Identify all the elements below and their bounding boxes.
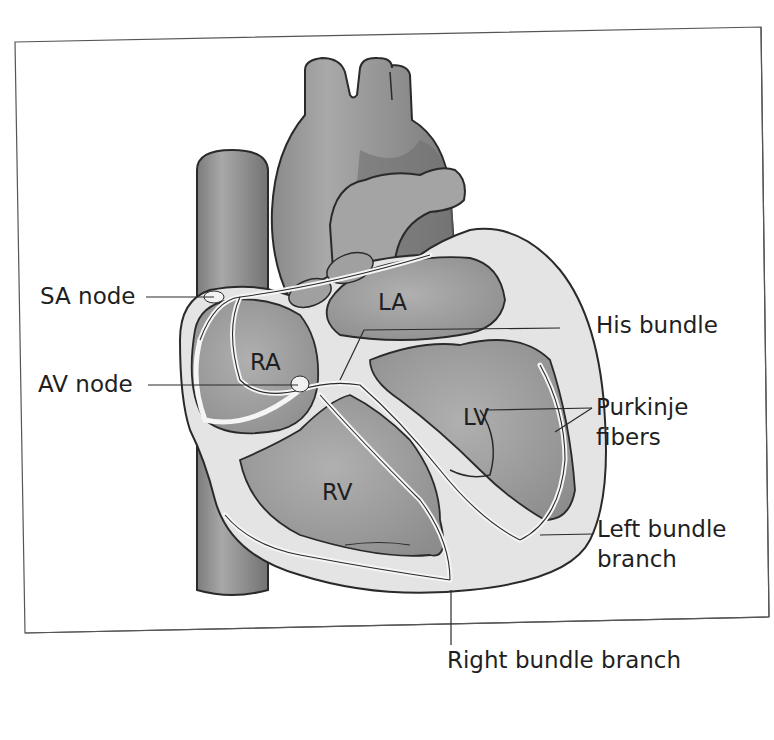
chamber-label-la: LA	[378, 289, 407, 315]
label-right-bundle: Right bundle branch	[447, 647, 681, 674]
heart-conduction-diagram	[0, 0, 774, 740]
label-sa-node: SA node	[40, 283, 135, 310]
label-av-node: AV node	[38, 371, 133, 398]
label-purkinje-1: Purkinje	[596, 394, 688, 421]
chamber-label-rv: RV	[322, 479, 352, 505]
chamber-label-ra: RA	[250, 349, 281, 375]
chamber-label-lv: LV	[463, 404, 489, 430]
label-left-bundle-2: branch	[597, 546, 677, 573]
label-purkinje-2: fibers	[596, 424, 661, 451]
label-left-bundle-1: Left bundle	[597, 516, 726, 543]
av-node-icon	[291, 376, 309, 392]
label-his-bundle: His bundle	[596, 312, 718, 339]
